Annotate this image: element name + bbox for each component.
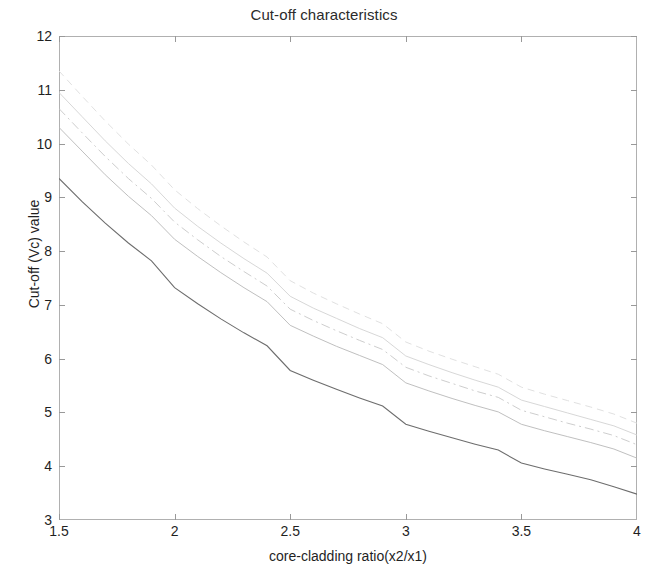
axis-frame [60, 37, 637, 520]
chart-title: Cut-off characteristics [0, 6, 648, 23]
y-axis-label: Cut-off (Vc) value [26, 154, 42, 354]
y-tick-label: 10 [12, 137, 52, 151]
x-tick-label: 3 [376, 524, 436, 538]
y-tick-label: 12 [12, 29, 52, 43]
x-axis-tick-labels: 1.522.533.54 [59, 524, 637, 546]
x-tick-label: 4 [607, 524, 648, 538]
series-line-curve-4 [59, 92, 637, 435]
plot-svg [59, 36, 637, 520]
x-tick-label: 1.5 [29, 524, 89, 538]
figure-canvas: Cut-off characteristics 3456789101112 1.… [0, 0, 648, 572]
series-line-curve-1 [59, 179, 637, 495]
x-tick-label: 2.5 [260, 524, 320, 538]
y-tick-label: 5 [12, 405, 52, 419]
plot-area [59, 36, 637, 520]
series-line-curve-3 [59, 109, 637, 445]
plot-border [60, 37, 637, 520]
y-tick-label: 11 [12, 83, 52, 97]
x-tick-label: 2 [145, 524, 205, 538]
x-tick-label: 3.5 [491, 524, 551, 538]
x-axis-label: core-cladding ratio(x2/x1) [59, 548, 637, 564]
series-paths [59, 71, 637, 494]
y-tick-label: 4 [12, 459, 52, 473]
axis-ticks [59, 36, 637, 520]
series-line-curve-5 [59, 71, 637, 423]
